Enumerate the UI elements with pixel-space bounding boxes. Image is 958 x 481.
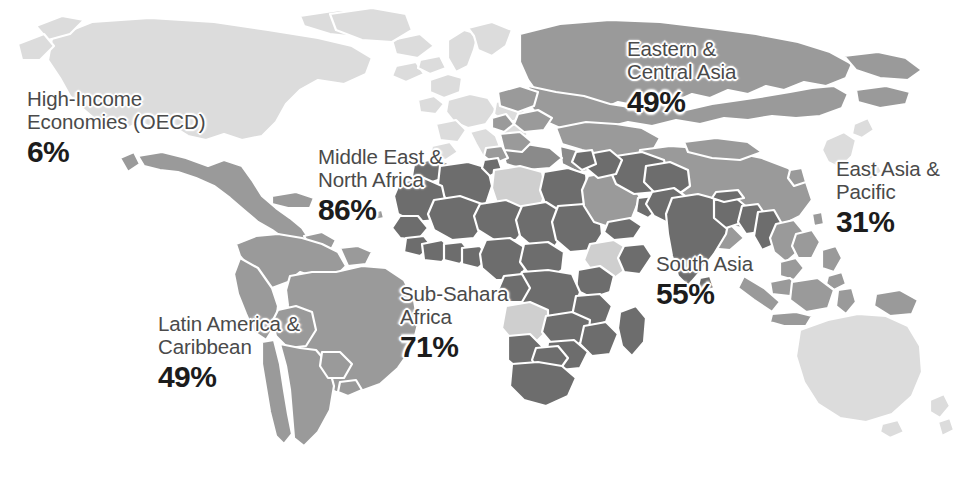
- region-value-east-asia-pacific: 31%: [836, 205, 940, 239]
- region-value-high-income-oecd: 6%: [27, 135, 205, 169]
- region-value-middle-east-north-africa: 86%: [318, 193, 443, 227]
- region-label-east-asia-pacific: East Asia & Pacific 31%: [836, 158, 940, 239]
- region-label-latin-america-caribbean: Latin America & Caribbean 49%: [158, 313, 300, 394]
- region-name-line1: South Asia: [656, 253, 753, 276]
- region-name-line2: Pacific: [836, 181, 940, 204]
- region-name-line1: East Asia &: [836, 158, 940, 181]
- region-label-high-income-oecd: High-Income Economies (OECD) 6%: [27, 88, 205, 169]
- world-map-graphic: .c { stroke:#ffffff; stroke-width:2.2; s…: [0, 0, 958, 481]
- region-label-middle-east-north-africa: Middle East & North Africa 86%: [318, 146, 443, 227]
- region-name-line2: Caribbean: [158, 336, 300, 359]
- region-name-line2: Economies (OECD): [27, 111, 205, 134]
- region-name-line2: Africa: [400, 306, 508, 329]
- region-arctic: [330, 8, 412, 42]
- region-value-eastern-central-asia: 49%: [627, 85, 736, 119]
- region-name-line1: Middle East &: [318, 146, 443, 169]
- region-value-sub-sahara-africa: 71%: [400, 330, 508, 364]
- region-label-south-asia: South Asia 55%: [656, 253, 753, 311]
- region-value-latin-america-caribbean: 49%: [158, 360, 300, 394]
- region-name-line2: Central Asia: [627, 61, 736, 84]
- region-name-line1: Latin America &: [158, 313, 300, 336]
- world-map-infographic: .c { stroke:#ffffff; stroke-width:2.2; s…: [0, 0, 958, 481]
- region-value-south-asia: 55%: [656, 277, 753, 311]
- region-name-line1: Eastern &: [627, 38, 736, 61]
- region-label-sub-sahara-africa: Sub-Sahara Africa 71%: [400, 283, 508, 364]
- region-name-line1: Sub-Sahara: [400, 283, 508, 306]
- region-label-eastern-central-asia: Eastern & Central Asia 49%: [627, 38, 736, 119]
- region-name-line2: North Africa: [318, 169, 443, 192]
- region-name-line1: High-Income: [27, 88, 205, 111]
